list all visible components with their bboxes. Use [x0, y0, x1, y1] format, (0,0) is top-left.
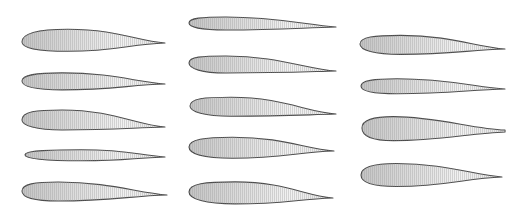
airfoil-diagram — [0, 0, 523, 219]
airfoil-hatch-L4 — [25, 150, 165, 161]
airfoil-hatch-R3 — [362, 117, 505, 141]
airfoil-hatch-L1 — [22, 29, 165, 51]
airfoil-hatch-M3 — [190, 97, 336, 116]
airfoil-hatch-M2 — [189, 56, 336, 73]
airfoil-hatch-R1 — [360, 35, 505, 54]
airfoil-hatch-L3 — [22, 110, 165, 130]
airfoil-hatch-R4 — [361, 164, 502, 187]
airfoil-hatch-M5 — [189, 182, 333, 204]
airfoil-hatch-L5 — [22, 182, 167, 201]
airfoil-group — [22, 17, 505, 204]
